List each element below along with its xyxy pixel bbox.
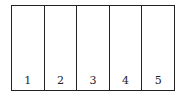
cell-1: 1 xyxy=(12,6,45,90)
cell-label: 5 xyxy=(142,74,174,87)
cell-5: 5 xyxy=(142,6,174,90)
cell-4: 4 xyxy=(110,6,143,90)
cell-label: 2 xyxy=(45,74,77,87)
cell-label: 4 xyxy=(110,74,142,87)
cell-label: 3 xyxy=(77,74,109,87)
cell-2: 2 xyxy=(45,6,78,90)
cell-label: 1 xyxy=(12,74,44,87)
cell-3: 3 xyxy=(77,6,110,90)
partitioned-rectangle: 1 2 3 4 5 xyxy=(11,5,175,91)
